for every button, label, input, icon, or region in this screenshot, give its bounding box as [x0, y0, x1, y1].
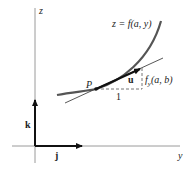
- j-vector-label: j: [54, 150, 58, 161]
- run-label: 1: [116, 91, 121, 102]
- curve-label: z = f(a, y): [111, 18, 152, 30]
- point-p: [94, 87, 98, 91]
- partial-derivative-diagram: z y k j z = f(a, y) u P 1 fy(a, b): [0, 0, 193, 171]
- tangent-vector-label: u: [128, 74, 134, 85]
- z-axis-label: z: [38, 5, 43, 16]
- rise-label-args: (a, b): [151, 74, 173, 86]
- k-vector-label: k: [25, 119, 31, 130]
- y-axis-label: y: [177, 150, 183, 161]
- rise-label: fy(a, b): [145, 74, 173, 88]
- point-p-label: P: [85, 79, 92, 90]
